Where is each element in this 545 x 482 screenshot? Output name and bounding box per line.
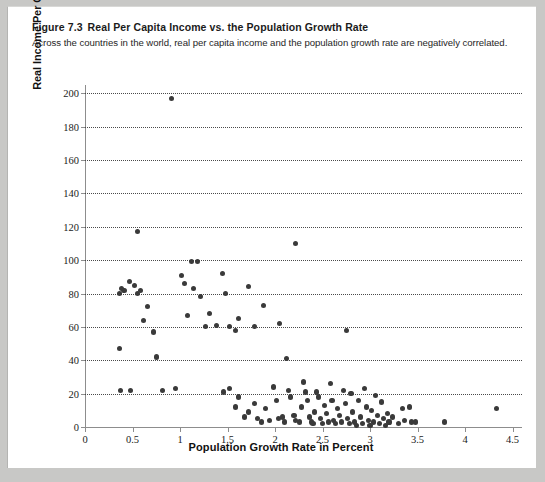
scatter-point: [385, 411, 390, 416]
scatter-point: [154, 354, 159, 359]
scatter-point: [379, 399, 384, 404]
scatter-point: [274, 398, 279, 403]
scatter-point: [169, 96, 174, 101]
scatter-point: [261, 303, 266, 308]
scatter-point: [362, 386, 367, 391]
scatter-point: [312, 409, 317, 414]
scatter-point: [227, 386, 232, 391]
figure-frame: Figure 7.3Real Per Capita Income vs. the…: [7, 6, 536, 468]
scatter-point: [121, 288, 126, 293]
y-tick-label: 140: [63, 188, 79, 199]
y-tick-label: 100: [63, 255, 79, 266]
scatter-point: [242, 414, 247, 419]
gridline-y: [85, 260, 522, 261]
scatter-point: [381, 416, 386, 421]
scatter-point: [400, 406, 405, 411]
scatter-point: [145, 304, 150, 309]
scatter-point: [138, 288, 143, 293]
scatter-point: [329, 398, 334, 403]
scatter-point: [390, 414, 395, 419]
x-tick-mark: [228, 427, 229, 432]
scatter-point: [173, 386, 178, 391]
y-tick-label: 200: [63, 88, 79, 99]
scatter-point: [303, 389, 308, 394]
y-tick-mark: [81, 260, 85, 261]
scatter-point: [356, 398, 361, 403]
scatter-point: [301, 379, 306, 384]
figure-title: Real Per Capita Income vs. the Populatio…: [88, 21, 369, 33]
y-tick-mark: [81, 360, 85, 361]
y-tick-label: 0: [74, 422, 79, 433]
scatter-point: [322, 403, 327, 408]
scatter-point: [191, 286, 196, 291]
scatter-point: [151, 329, 156, 334]
scatter-point: [182, 281, 187, 286]
scatter-point: [324, 411, 329, 416]
scatter-point: [364, 404, 369, 409]
y-tick-label: 60: [69, 321, 80, 332]
x-tick-mark: [323, 427, 324, 432]
scatter-point: [236, 394, 241, 399]
scatter-point: [135, 229, 140, 234]
gridline-y: [85, 227, 522, 228]
scatter-point: [297, 419, 302, 424]
figure-title-line: Figure 7.3Real Per Capita Income vs. the…: [32, 21, 527, 33]
scatter-point: [413, 419, 418, 424]
gridline-y: [85, 193, 522, 194]
scatter-point: [271, 384, 276, 389]
gridline-y: [85, 294, 522, 295]
gridline-y: [85, 327, 522, 328]
y-tick-label: 20: [69, 388, 80, 399]
y-tick-label: 80: [69, 288, 80, 299]
y-tick-label: 40: [69, 355, 80, 366]
scatter-point: [236, 316, 241, 321]
scatter-point: [160, 388, 165, 393]
x-tick-mark: [133, 427, 134, 432]
scatter-point: [358, 414, 363, 419]
y-tick-mark: [81, 227, 85, 228]
scatter-point: [132, 283, 137, 288]
gridline-y: [85, 160, 522, 161]
scatter-point: [214, 323, 219, 328]
scatter-point: [263, 406, 268, 411]
scatter-point: [221, 389, 226, 394]
scatter-point: [407, 404, 412, 409]
scatter-point: [350, 409, 355, 414]
scatter-point: [305, 398, 310, 403]
y-tick-mark: [81, 160, 85, 161]
scatter-point: [333, 421, 338, 426]
scatter-point: [337, 413, 342, 418]
x-tick-mark: [513, 427, 514, 432]
gridline-y: [85, 127, 522, 128]
x-axis-label: Population Growth Rate in Percent: [32, 441, 530, 453]
scatter-point: [344, 328, 349, 333]
x-tick-mark: [275, 427, 276, 432]
scatter-point: [233, 404, 238, 409]
scatter-point: [339, 419, 344, 424]
scatter-point: [360, 421, 365, 426]
scatter-point: [118, 388, 123, 393]
scatter-point: [371, 419, 376, 424]
y-tick-mark: [81, 193, 85, 194]
scatter-point: [195, 259, 200, 264]
scatter-point: [207, 311, 212, 316]
scatter-point: [341, 388, 346, 393]
scatter-point: [220, 271, 225, 276]
scatter-point: [141, 318, 146, 323]
scatter-point: [233, 328, 238, 333]
scatter-point: [128, 388, 133, 393]
scatter-point: [335, 406, 340, 411]
scatter-point: [299, 404, 304, 409]
x-tick-mark: [418, 427, 419, 432]
scatter-point: [117, 346, 122, 351]
scatter-point: [348, 391, 353, 396]
scatter-point: [259, 419, 264, 424]
scatter-point: [373, 393, 378, 398]
gridline-y: [85, 93, 522, 94]
scatter-point: [189, 259, 194, 264]
scatter-point: [310, 421, 315, 426]
x-tick-mark: [180, 427, 181, 432]
scatter-point: [185, 313, 190, 318]
scatter-point: [246, 284, 251, 289]
y-tick-mark: [81, 294, 85, 295]
